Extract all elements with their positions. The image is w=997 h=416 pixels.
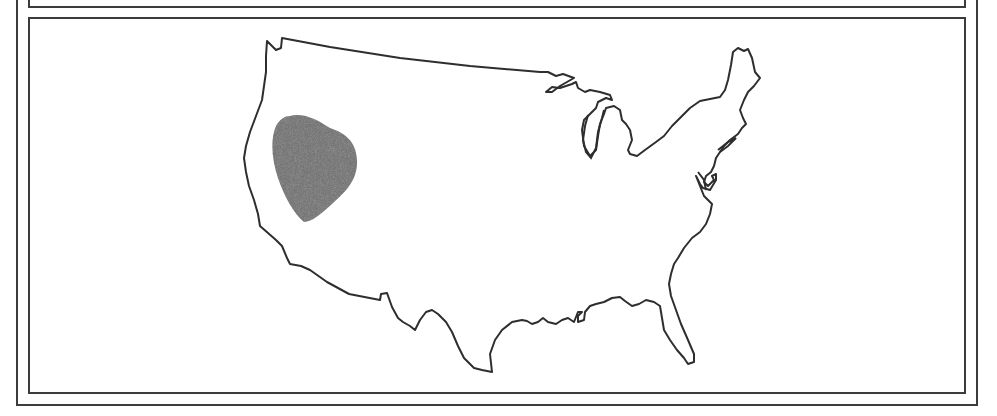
us-map [0, 0, 997, 416]
highlighted-region [272, 115, 357, 222]
